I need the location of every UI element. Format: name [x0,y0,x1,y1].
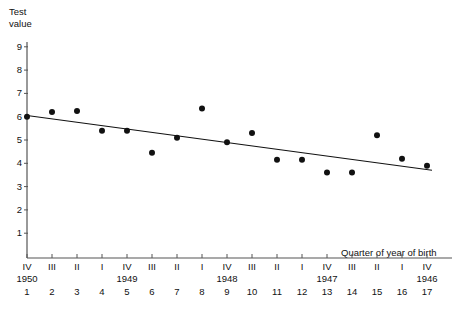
scatter-chart: Test value Quarter of year of birth 1234… [0,0,456,316]
data-point [249,130,255,136]
y-tick-label: 3 [8,181,22,192]
x-tick-index-label: 9 [214,286,240,297]
x-tick-year-label: 1949 [111,273,143,284]
data-point [149,150,155,156]
x-tick-quarter-label: IV [414,261,440,272]
x-tick-quarter-label: I [289,261,315,272]
y-tick-label: 9 [8,41,22,52]
x-tick-index-label: 13 [314,286,340,297]
x-tick-quarter-label: II [264,261,290,272]
y-tick-label: 2 [8,204,22,215]
x-tick-index-label: 10 [239,286,265,297]
x-tick-index-label: 17 [414,286,440,297]
x-tick-index-label: 8 [189,286,215,297]
x-tick-quarter-label: IV [314,261,340,272]
y-tick-label: 1 [8,227,22,238]
x-tick-index-label: 3 [64,286,90,297]
y-tick-label: 7 [8,87,22,98]
data-point [374,132,380,138]
data-point [349,170,355,176]
data-point [99,128,105,134]
data-point [24,114,30,120]
x-tick-index-label: 12 [289,286,315,297]
x-tick-quarter-label: III [39,261,65,272]
x-tick-quarter-label: IV [14,261,40,272]
y-tick-label: 4 [8,157,22,168]
data-point [399,156,405,162]
x-tick-quarter-label: III [139,261,165,272]
x-tick-year-label: 1950 [11,273,43,284]
x-tick-index-label: 15 [364,286,390,297]
x-tick-index-label: 5 [114,286,140,297]
x-tick-index-label: 14 [339,286,365,297]
x-tick-index-label: 7 [164,286,190,297]
data-point [299,157,305,163]
x-tick-quarter-label: IV [114,261,140,272]
x-tick-index-label: 16 [389,286,415,297]
x-tick-index-label: 4 [89,286,115,297]
x-tick-quarter-label: III [239,261,265,272]
data-points [24,106,430,176]
data-point [174,135,180,141]
x-tick-year-label: 1947 [311,273,343,284]
data-point [224,139,230,145]
y-tick-label: 8 [8,64,22,75]
data-point [274,157,280,163]
data-point [124,128,130,134]
axes [27,42,452,258]
y-tick-label: 6 [8,111,22,122]
x-tick-index-label: 6 [139,286,165,297]
x-tick-index-label: 1 [14,286,40,297]
x-tick-quarter-label: II [364,261,390,272]
y-tick-label: 5 [8,134,22,145]
x-tick-quarter-label: II [164,261,190,272]
x-tick-quarter-label: II [64,261,90,272]
x-tick-quarter-label: III [339,261,365,272]
x-tick-quarter-label: IV [214,261,240,272]
x-tick-index-label: 2 [39,286,65,297]
data-point [74,108,80,114]
data-point [424,163,430,169]
data-point [199,106,205,112]
x-tick-quarter-label: I [89,261,115,272]
data-point [324,170,330,176]
x-tick-year-label: 1948 [211,273,243,284]
x-tick-year-label: 1946 [411,273,443,284]
x-tick-quarter-label: I [189,261,215,272]
data-point [49,109,55,115]
x-tick-quarter-label: I [389,261,415,272]
x-tick-index-label: 11 [264,286,290,297]
